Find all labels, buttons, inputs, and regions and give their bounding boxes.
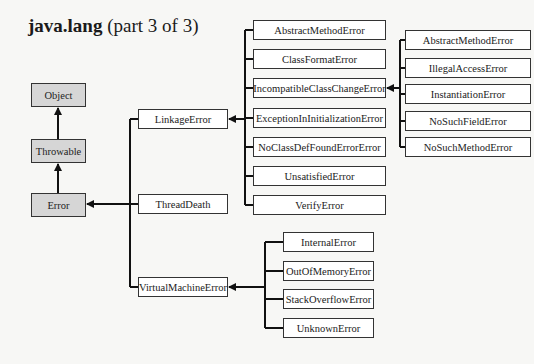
class-instantiation-error: InstantiationError (405, 84, 531, 104)
class-linkage-error: LinkageError (138, 109, 228, 129)
class-class-format-error: ClassFormatError (253, 49, 386, 69)
class-abstract-method-error: AbstractMethodError (253, 20, 386, 40)
class-object: Object (31, 83, 86, 107)
class-internal-error: InternalError (283, 232, 374, 252)
class-incompatible-class-change-error: IncompatibleClassChangeError (253, 78, 386, 98)
class-error: Error (31, 193, 86, 217)
class-verify-error: VerifyError (253, 195, 386, 215)
class-no-such-field-error: NoSuchFieldError (405, 111, 531, 131)
class-icce-abstract-method-error: AbstractMethodError (405, 30, 531, 50)
class-out-of-memory-error: OutOfMemoryError (283, 261, 374, 281)
class-virtual-machine-error: VirtualMachineError (138, 277, 228, 297)
class-exception-in-initialization-error: ExceptionInInitializationError (253, 108, 386, 128)
class-thread-death: ThreadDeath (138, 194, 228, 214)
class-stack-overflow-error: StackOverflowError (283, 289, 374, 309)
class-illegal-access-error: IllegalAccessError (405, 58, 531, 78)
class-unknown-error: UnknownError (283, 318, 374, 338)
class-throwable: Throwable (31, 139, 86, 163)
class-no-such-method-error: NoSuchMethodError (405, 137, 531, 157)
class-unsatisfied-error: UnsatisfiedError (253, 166, 386, 186)
class-no-class-def-found-error: NoClassDefFoundErrorError (253, 137, 386, 157)
